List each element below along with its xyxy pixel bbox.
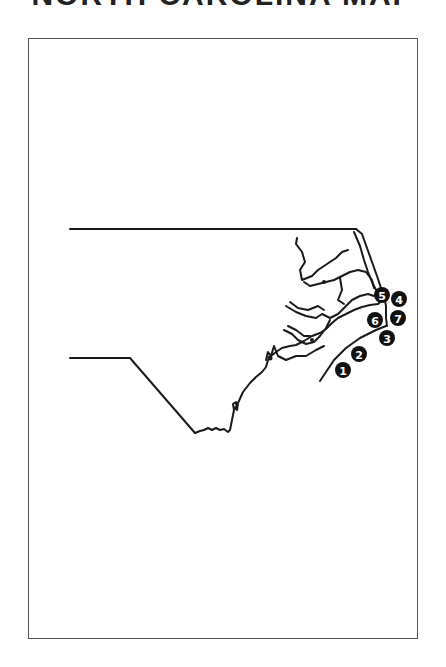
pamlico-river bbox=[286, 294, 374, 318]
svg-text:4: 4 bbox=[395, 294, 403, 307]
marker-7: 7 bbox=[390, 310, 406, 326]
svg-text:1: 1 bbox=[339, 365, 347, 378]
pamlico-river-b bbox=[290, 302, 324, 310]
southwestern-border bbox=[70, 358, 195, 433]
marker-2: 2 bbox=[351, 346, 367, 362]
marker-4: 4 bbox=[391, 291, 407, 307]
marker-3: 3 bbox=[379, 330, 395, 346]
svg-text:7: 7 bbox=[394, 313, 402, 326]
marker-6: 6 bbox=[367, 312, 383, 328]
svg-text:3: 3 bbox=[383, 333, 391, 346]
svg-text:2: 2 bbox=[355, 349, 363, 362]
nc-map: 1 2 3 4 5 6 7 bbox=[0, 0, 446, 667]
marker-5: 5 bbox=[374, 287, 390, 303]
marker-1: 1 bbox=[335, 362, 351, 378]
albemarle-river-1 bbox=[296, 238, 348, 280]
southern-coastline bbox=[195, 298, 384, 433]
outer-banks bbox=[356, 229, 387, 326]
albemarle-river-3 bbox=[338, 278, 344, 304]
svg-text:6: 6 bbox=[371, 315, 379, 328]
svg-text:5: 5 bbox=[378, 290, 386, 303]
neuse-river bbox=[284, 320, 330, 344]
